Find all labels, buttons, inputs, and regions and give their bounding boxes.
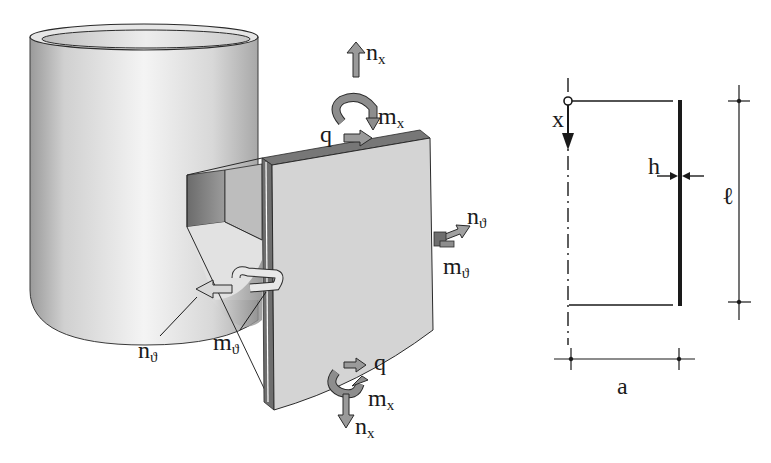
shell-diagram: nx mx q nϑ mϑ nϑ mϑ q mx nx x h ℓ a	[0, 0, 771, 463]
label-thickness-h: h	[648, 154, 660, 178]
mx-top-moment-arrow	[336, 97, 380, 130]
label-q-bottom: q	[374, 350, 386, 374]
label-mx-top: mx	[378, 104, 404, 131]
label-nx-bottom: nx	[355, 414, 375, 441]
label-mx-bottom: mx	[368, 386, 394, 413]
label-mtheta-right: mϑ	[443, 254, 469, 281]
label-q-top: q	[320, 122, 332, 146]
label-ntheta-right: nϑ	[467, 204, 486, 231]
label-nx-top: nx	[366, 40, 386, 67]
label-x-axis: x	[552, 107, 564, 131]
cross-section	[554, 78, 751, 370]
label-mtheta-left: mϑ	[213, 330, 239, 357]
nx-top-arrow	[347, 42, 365, 77]
nx-bottom-arrow	[338, 394, 354, 428]
label-radius-a: a	[617, 374, 628, 398]
label-ntheta-left: nϑ	[138, 338, 157, 365]
label-length-l: ℓ	[722, 184, 734, 208]
